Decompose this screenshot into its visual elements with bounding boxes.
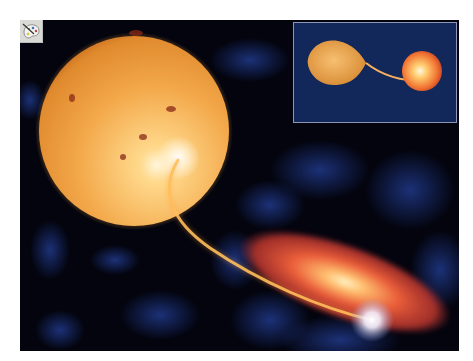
roche-lobe-star (308, 41, 366, 85)
palette-icon[interactable] (20, 20, 43, 43)
roche-lobe-inset (293, 22, 457, 123)
companion-star (402, 51, 442, 91)
giant-star (35, 30, 233, 230)
hot-spot (350, 298, 394, 342)
binary-star-illustration (20, 20, 459, 351)
